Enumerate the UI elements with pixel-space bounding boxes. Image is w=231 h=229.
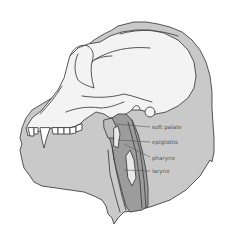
label-soft-palate: soft palate — [152, 124, 182, 131]
label-larynx: larynx — [152, 168, 170, 175]
label-epiglottis: epiglottis — [152, 139, 178, 146]
molar — [58, 128, 64, 134]
incisor — [34, 128, 38, 134]
mastoid-process — [145, 107, 155, 117]
molar — [64, 128, 70, 134]
molar — [70, 127, 76, 134]
chimp-vocal-tract-diagram: soft palate epiglottis pharynx larynx — [0, 0, 231, 229]
label-pharynx: pharynx — [152, 155, 176, 162]
premolar — [52, 128, 58, 134]
